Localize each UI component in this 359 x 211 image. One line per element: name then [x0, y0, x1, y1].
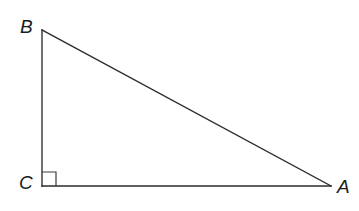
vertex-label-c: C	[19, 173, 33, 192]
right-angle-marker-c	[42, 172, 56, 186]
edge-ab-hypotenuse	[42, 30, 331, 186]
vertex-label-b: B	[20, 17, 33, 36]
triangle-svg	[0, 0, 359, 211]
geometry-figure: B C A	[0, 0, 359, 211]
vertex-label-a: A	[337, 177, 350, 196]
